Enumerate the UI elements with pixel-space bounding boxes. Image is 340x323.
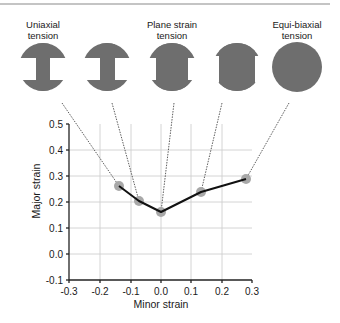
specimen-1-uniaxial — [19, 43, 67, 95]
svg-text:0.1: 0.1 — [49, 223, 63, 234]
svg-text:-0.1: -0.1 — [122, 286, 140, 297]
svg-text:0.4: 0.4 — [49, 145, 63, 156]
svg-text:tension: tension — [28, 30, 59, 41]
specimen-5-equi-biaxial — [272, 42, 322, 92]
svg-text:0.0: 0.0 — [154, 286, 168, 297]
x-axis-title: Minor strain — [134, 298, 189, 310]
svg-text:tension: tension — [282, 30, 313, 41]
svg-text:Equi-biaxial: Equi-biaxial — [272, 19, 321, 30]
svg-text:0.0: 0.0 — [49, 249, 63, 260]
specimen-label-plane-strain: Plane strain tension — [147, 19, 197, 41]
svg-text:0.3: 0.3 — [49, 171, 63, 182]
svg-text:0.2: 0.2 — [49, 197, 63, 208]
svg-text:0.1: 0.1 — [184, 286, 198, 297]
svg-text:0.2: 0.2 — [215, 286, 229, 297]
specimen-label-equi-biaxial: Equi-biaxial tension — [272, 19, 321, 41]
svg-text:Plane strain: Plane strain — [147, 19, 197, 30]
axes — [66, 124, 252, 283]
svg-text:0.3: 0.3 — [245, 286, 259, 297]
svg-text:0.5: 0.5 — [49, 119, 63, 130]
y-axis-title: Major strain — [30, 163, 42, 218]
forming-limit-line — [119, 179, 246, 212]
specimen-label-uniaxial: Uniaxial tension — [26, 19, 60, 41]
grid — [69, 124, 252, 280]
y-tick-labels: -0.1 0.0 0.1 0.2 0.3 0.4 0.5 — [46, 119, 64, 286]
x-tick-labels: -0.3 -0.2 -0.1 0.0 0.1 0.2 0.3 — [60, 286, 259, 297]
specimen-3-plane-strain — [148, 43, 196, 95]
svg-text:-0.2: -0.2 — [91, 286, 109, 297]
svg-text:-0.3: -0.3 — [60, 286, 78, 297]
svg-text:tension: tension — [157, 30, 188, 41]
data-points — [114, 174, 251, 217]
chart-figure: Uniaxial tension Plane strain tension Eq… — [0, 0, 340, 323]
svg-text:Uniaxial: Uniaxial — [26, 19, 60, 30]
specimen-4 — [213, 43, 261, 95]
specimen-2 — [83, 43, 131, 95]
svg-text:-0.1: -0.1 — [46, 275, 64, 286]
leader-lines — [62, 103, 289, 212]
